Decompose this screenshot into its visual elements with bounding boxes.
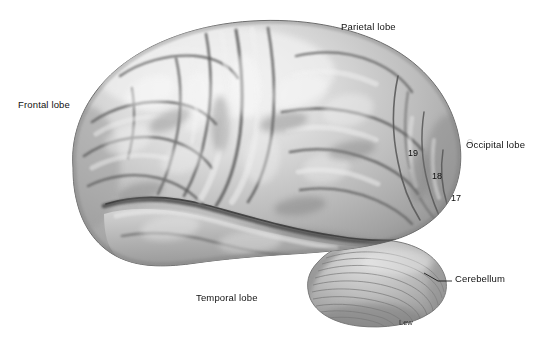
brodmann-area-17-label: 17 bbox=[451, 193, 461, 203]
label-parietal-lobe: Parietal lobe bbox=[341, 21, 396, 32]
brain-illustration bbox=[0, 0, 542, 338]
artist-signature: Lew bbox=[399, 318, 413, 327]
brodmann-area-19-label: 19 bbox=[408, 148, 418, 158]
brain-lateral-view-figure bbox=[0, 0, 542, 338]
label-cerebellum: Cerebellum bbox=[455, 273, 505, 284]
label-temporal-lobe: Temporal lobe bbox=[196, 292, 258, 303]
label-frontal-lobe: Frontal lobe bbox=[18, 99, 70, 110]
label-occipital-lobe: Occipital lobe bbox=[466, 139, 525, 150]
brodmann-area-18-label: 18 bbox=[432, 171, 442, 181]
